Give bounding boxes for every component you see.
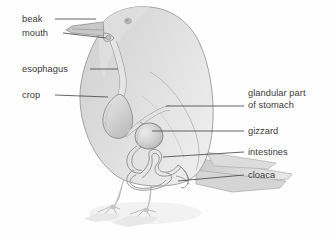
label-glandular-part-of-stomach-line1: glandular part — [248, 88, 306, 100]
label-glandular-part-of-stomach-line2: of stomach — [248, 100, 306, 112]
label-beak: beak — [22, 14, 42, 26]
label-intestines: intestines — [248, 147, 288, 159]
label-esophagus: esophagus — [22, 64, 68, 76]
label-gizzard-line1: gizzard — [248, 126, 278, 138]
label-crop: crop — [22, 90, 40, 102]
label-cloaca: cloaca — [248, 170, 275, 182]
label-gizzard: gizzard — [248, 126, 278, 138]
label-mouth: mouth — [22, 28, 48, 40]
bird-anatomy-illustration — [0, 0, 334, 235]
label-intestines-line1: intestines — [248, 147, 288, 159]
label-cloaca-line1: cloaca — [248, 170, 275, 182]
label-glandular-part-of-stomach: glandular partof stomach — [248, 88, 306, 111]
bird-digestive-system-figure: beakmouthesophaguscropglandular partof s… — [0, 0, 334, 235]
